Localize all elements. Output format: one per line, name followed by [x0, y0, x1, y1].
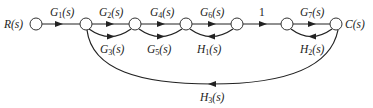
gain-label-g2: G2(s) — [99, 6, 124, 20]
arrow-icon — [308, 21, 316, 27]
arrow-icon — [157, 34, 165, 40]
branch-h1 — [190, 29, 233, 40]
arrow-icon — [208, 81, 216, 87]
branch-g1 — [42, 21, 80, 27]
branch-g4 — [141, 21, 180, 27]
branch-g6 — [192, 21, 231, 27]
arrow-icon — [259, 21, 267, 27]
gain-label-g1: G1(s) — [50, 6, 75, 20]
arrow-icon — [55, 21, 63, 27]
branch-g7 — [293, 21, 330, 27]
branch-h2 — [291, 29, 332, 40]
arrow-icon — [106, 21, 114, 27]
branch-g3 — [89, 29, 131, 40]
gain-label-unity: 1 — [259, 6, 265, 18]
arrow-icon — [308, 34, 316, 40]
gain-label-g7: G7(s) — [300, 6, 325, 20]
node-input — [30, 18, 42, 30]
gain-label-h2: H2(s) — [299, 43, 325, 57]
node-output — [330, 18, 342, 30]
gain-label-h3: H3(s) — [199, 91, 225, 105]
branch-g5 — [139, 29, 182, 40]
node-3 — [180, 18, 192, 30]
node-4 — [231, 18, 243, 30]
node-5 — [281, 18, 293, 30]
output-label: C(s) — [345, 18, 365, 31]
signal-flow-graph: R(s) C(s) G1(s) G2(s) G4(s) G6(s) 1 G7(s… — [0, 0, 373, 108]
arrow-icon — [208, 21, 216, 27]
branch-unity — [243, 21, 281, 27]
gain-label-h1: H1(s) — [196, 43, 222, 57]
node-1 — [80, 18, 92, 30]
gain-label-g5: G5(s) — [147, 43, 172, 57]
arrow-icon — [207, 34, 215, 40]
node-2 — [129, 18, 141, 30]
arrow-icon — [157, 21, 165, 27]
arrow-icon — [107, 34, 115, 40]
input-label: R(s) — [3, 18, 23, 31]
branch-g2 — [92, 21, 129, 27]
gain-label-g6: G6(s) — [200, 6, 225, 20]
gain-label-g3: G3(s) — [100, 43, 125, 57]
gain-label-g4: G4(s) — [150, 6, 175, 20]
